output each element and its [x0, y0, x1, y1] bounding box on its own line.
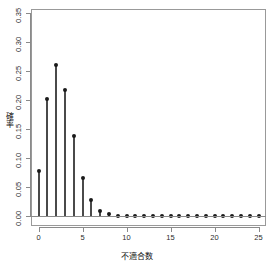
- x-axis-tick: [259, 227, 260, 232]
- x-axis-tick: [171, 227, 172, 232]
- x-axis-tick-label: 10: [107, 233, 147, 242]
- y-axis-line: [30, 13, 31, 216]
- stem-bar: [64, 90, 66, 216]
- y-axis-tick-label: 0.20: [14, 95, 23, 110]
- y-axis-tick: [26, 129, 31, 130]
- y-axis-tick: [26, 100, 31, 101]
- stem-bar: [82, 178, 84, 216]
- x-axis-line: [39, 227, 259, 228]
- y-axis-tick-label: 0.30: [14, 37, 23, 52]
- stem-bar: [73, 136, 75, 216]
- y-axis-title: 確率: [4, 112, 12, 128]
- zero-baseline: [31, 216, 266, 217]
- stem-bar: [55, 65, 57, 216]
- y-axis-tick-label: 0.05: [14, 182, 23, 197]
- data-point: [54, 63, 58, 67]
- y-axis-tick-label: 0.35: [14, 8, 23, 23]
- data-point: [63, 88, 67, 92]
- data-point: [37, 169, 41, 173]
- x-axis-tick: [39, 227, 40, 232]
- y-axis-tick: [26, 158, 31, 159]
- x-axis-tick-label: 25: [239, 233, 274, 242]
- x-axis-tick-label: 15: [151, 233, 191, 242]
- x-axis-title: 不適合数: [0, 250, 273, 261]
- data-point: [81, 176, 85, 180]
- x-axis-tick: [83, 227, 84, 232]
- x-axis-tick-label: 0: [19, 233, 59, 242]
- x-axis-tick: [127, 227, 128, 232]
- data-point: [98, 209, 102, 213]
- x-axis-tick-label: 20: [195, 233, 235, 242]
- stem-bar: [38, 171, 40, 216]
- data-point: [72, 134, 76, 138]
- y-axis-tick: [26, 42, 31, 43]
- stems-layer: [31, 9, 266, 226]
- data-point: [89, 198, 93, 202]
- y-axis-tick-label: 0.10: [14, 153, 23, 168]
- x-axis-tick-label: 5: [63, 233, 103, 242]
- poisson-probability-chart: 0.000.050.100.150.200.250.300.3505101520…: [0, 0, 273, 267]
- data-point: [45, 97, 49, 101]
- x-axis-tick: [215, 227, 216, 232]
- y-axis-tick: [26, 13, 31, 14]
- y-axis-tick: [26, 187, 31, 188]
- y-axis-tick-label: 0.00: [14, 211, 23, 226]
- y-axis-tick: [26, 71, 31, 72]
- y-axis-tick-label: 0.15: [14, 124, 23, 139]
- stem-bar: [46, 99, 48, 216]
- stem-bar: [90, 200, 92, 216]
- y-axis-tick-label: 0.25: [14, 66, 23, 81]
